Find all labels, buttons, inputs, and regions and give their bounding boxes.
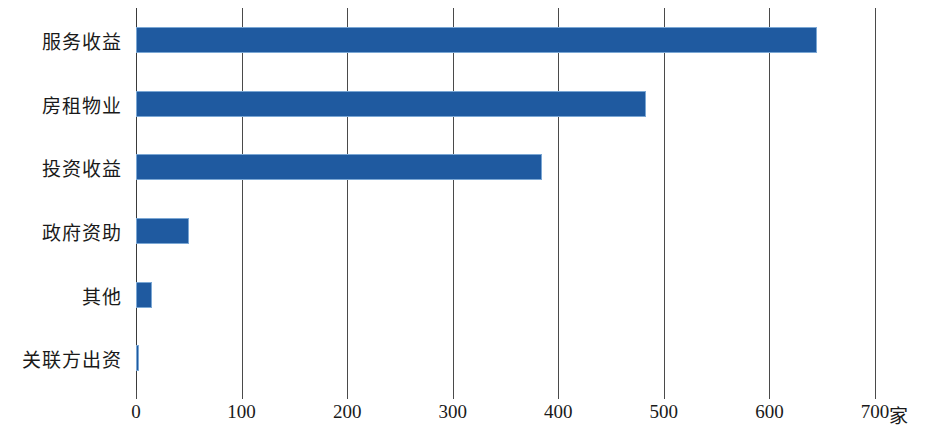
plot-area [136, 8, 875, 390]
tick-mark [347, 390, 348, 399]
tick-label: 500 [650, 401, 679, 423]
tick-mark [453, 390, 454, 399]
tick-mark [664, 390, 665, 399]
bar [136, 27, 817, 53]
category-axis-labels: 服务收益房租物业投资收益政府资助其他关联方出资 [0, 8, 130, 390]
bars [136, 8, 875, 390]
bar [136, 218, 189, 244]
tick-label: 200 [333, 401, 362, 423]
tick-mark [136, 390, 137, 399]
tick-mark [875, 390, 876, 399]
gridline-700 [875, 8, 876, 390]
category-label: 房租物业 [42, 90, 122, 117]
bar-chart: 服务收益房租物业投资收益政府资助其他关联方出资 0100200300400500… [0, 0, 932, 428]
bar [136, 154, 542, 180]
tick-mark [769, 390, 770, 399]
bar [136, 345, 139, 371]
tick-label: 100 [227, 401, 256, 423]
tick-mark [558, 390, 559, 399]
tick-label: 300 [438, 401, 467, 423]
category-label: 关联方出资 [22, 345, 122, 372]
value-axis: 0100200300400500600700 [136, 390, 875, 428]
tick-mark [242, 390, 243, 399]
axis-unit-label: 家 [889, 401, 908, 428]
category-label: 投资收益 [42, 154, 122, 181]
tick-label: 600 [755, 401, 784, 423]
bar [136, 282, 152, 308]
tick-label: 400 [544, 401, 573, 423]
category-label: 服务收益 [42, 26, 122, 53]
tick-label: 700 [861, 401, 890, 423]
category-label: 其他 [82, 281, 122, 308]
tick-label: 0 [131, 401, 141, 423]
category-label: 政府资助 [42, 217, 122, 244]
bar [136, 91, 646, 117]
